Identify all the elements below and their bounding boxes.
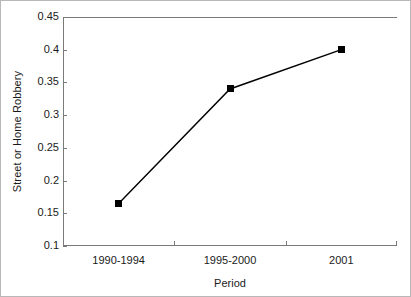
- plot-area: [63, 17, 397, 246]
- x-axis-tick-mark: [286, 241, 287, 246]
- data-point-marker: [115, 200, 122, 207]
- x-axis-tick-mark: [396, 241, 397, 246]
- y-axis-tick-label: 0.45: [25, 11, 59, 22]
- y-axis-tick-label: 0.35: [25, 76, 59, 87]
- y-axis-tick-mark: [63, 213, 67, 214]
- y-axis-tick-mark: [63, 17, 67, 18]
- y-axis-tick-mark: [63, 115, 67, 116]
- chart-figure: Street or Home Robbery 0.450.40.350.30.2…: [0, 0, 411, 297]
- y-axis-tick-mark: [63, 148, 67, 149]
- y-axis-tick-label: 0.25: [25, 142, 59, 153]
- x-axis-tick-label: 1990-1994: [92, 254, 145, 266]
- y-axis-tick-label: 0.4: [25, 44, 59, 55]
- y-axis-tick-label: 0.15: [25, 207, 59, 218]
- x-axis-tick-label: 2001: [329, 254, 353, 266]
- x-axis-tick-label: 1995-2000: [204, 254, 257, 266]
- y-axis-tick-label: 0.2: [25, 175, 59, 186]
- x-axis-tick-mark: [174, 241, 175, 246]
- y-axis-tick-mark: [63, 181, 67, 182]
- y-axis-tick-mark: [63, 246, 67, 247]
- data-point-marker: [338, 46, 345, 53]
- data-series-line: [63, 17, 397, 246]
- y-axis-tick-mark: [63, 82, 67, 83]
- y-axis-tick-label: 0.1: [25, 240, 59, 251]
- x-axis-title: Period: [63, 277, 397, 289]
- y-axis-tick-mark: [63, 50, 67, 51]
- data-point-marker: [227, 85, 234, 92]
- y-axis-tick-label: 0.3: [25, 109, 59, 120]
- y-axis-tick-group: 0.450.40.350.30.250.20.150.1: [1, 17, 59, 246]
